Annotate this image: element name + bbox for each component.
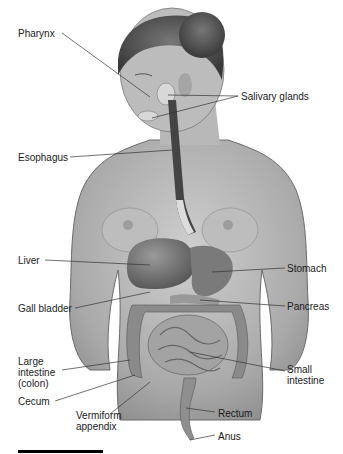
label-cecum: Cecum [18,396,50,407]
label-small-intestine-line1: Small [287,364,337,375]
label-salivary-glands: Salivary glands [241,91,309,102]
label-liver: Liver [18,255,40,266]
label-vermiform-appendix: Vermiform appendix [76,410,136,432]
label-small-intestine-line2: intestine [287,375,337,386]
label-small-intestine: Small intestine [287,364,337,386]
label-esophagus: Esophagus [18,152,68,163]
label-large-intestine-line3: (colon) [18,378,68,389]
label-gall-bladder: Gall bladder [18,303,72,314]
label-vermiform-appendix-line1: Vermiform [76,410,136,421]
label-large-intestine-line1: Large [18,356,68,367]
label-large-intestine-line2: intestine [18,367,68,378]
label-stomach: Stomach [287,263,326,274]
label-rectum: Rectum [218,408,252,419]
scale-bar [18,450,103,453]
label-vermiform-appendix-line2: appendix [76,421,136,432]
label-pharynx: Pharynx [18,28,55,39]
label-pancreas: Pancreas [287,301,329,312]
label-anus: Anus [218,431,241,442]
label-large-intestine: Large intestine (colon) [18,356,68,389]
